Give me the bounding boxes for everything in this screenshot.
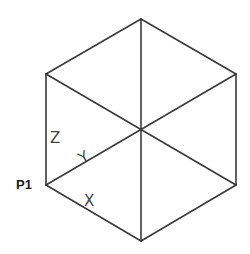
isometric-cube-diagram: P1 Z Y X bbox=[0, 0, 250, 254]
point-label-p1: P1 bbox=[16, 177, 32, 192]
edge-top-upper-right bbox=[141, 19, 236, 74]
edge-upper-left-top bbox=[46, 19, 141, 74]
axis-label-x: X bbox=[84, 192, 94, 210]
axis-label-z: Z bbox=[50, 129, 60, 147]
edge-lower-right-bottom bbox=[141, 185, 236, 241]
axis-label-y: Y bbox=[74, 147, 93, 168]
diagram-svg: P1 Z Y X bbox=[0, 0, 250, 254]
